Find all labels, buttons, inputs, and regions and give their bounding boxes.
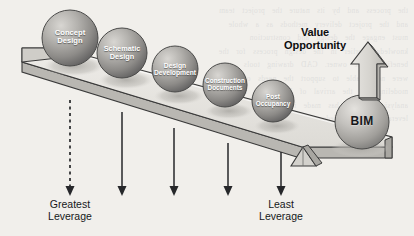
- up-arrow-3d-icon: [351, 42, 388, 100]
- sphere-label-concept-design: Concept Design: [38, 29, 102, 45]
- arrow-post-occupancy: [277, 152, 286, 196]
- figure-canvas: the process and by its nature the projec…: [0, 0, 414, 236]
- sphere-label-construction-documents: Construction Documents: [196, 78, 254, 92]
- sphere-label-design-development: Design Development: [145, 62, 205, 76]
- least-leverage-label: Least Leverage: [245, 198, 317, 222]
- sphere-label-bim: BIM: [332, 115, 392, 128]
- sphere-label-schematic-design: Schematic Design: [92, 45, 152, 61]
- arrow-concept-design: [66, 100, 75, 196]
- arrow-construction-documents: [224, 143, 233, 196]
- greatest-leverage-label: Greatest Leverage: [34, 198, 106, 222]
- sphere-label-post-occupancy: Post Occupancy: [245, 94, 301, 108]
- value-opportunity-label: Value Opportunity: [284, 26, 346, 51]
- arrow-schematic-design: [118, 112, 127, 196]
- arrow-design-development: [170, 128, 179, 196]
